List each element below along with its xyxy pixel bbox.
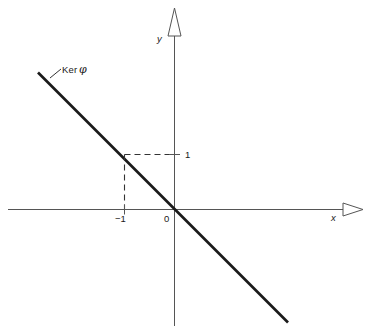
kernel-label-text: Ker <box>62 64 77 75</box>
y-axis-label: y <box>157 34 162 44</box>
diagram-canvas <box>0 0 373 335</box>
origin-label: 0 <box>164 214 169 224</box>
kernel-label: Kerφ <box>62 64 87 75</box>
kernel-line <box>38 73 288 323</box>
annotation-leader-line <box>50 69 61 78</box>
y-axis-arrowhead-icon <box>168 8 181 36</box>
kernel-line-diagram: Kerφ y x 1 −1 0 <box>0 0 373 335</box>
phi-symbol: φ <box>77 63 86 76</box>
x-axis-label: x <box>331 213 336 223</box>
y-tick-label-1: 1 <box>185 150 190 160</box>
x-tick-label-minus-1: −1 <box>115 214 126 224</box>
x-axis-arrowhead-icon <box>343 203 363 216</box>
